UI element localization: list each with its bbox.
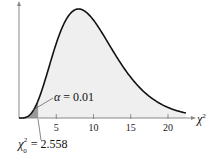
curve-body-fill — [19, 9, 186, 118]
x-axis-label: χ2 — [196, 112, 206, 126]
x-tick-label: 10 — [89, 122, 99, 133]
alpha-annotation: α= 0.01 — [54, 90, 94, 104]
x-axis-arrow-icon — [191, 116, 196, 120]
critical-value-annotation: χ20= 2.558 — [16, 136, 68, 155]
x-tick-label: 15 — [126, 122, 136, 133]
y-axis-arrow-icon — [17, 1, 21, 6]
chi-square-distribution-figure: 5101520 χ2 α= 0.01 χ20= 2.558 — [0, 0, 212, 163]
x-tick-label: 20 — [163, 122, 173, 133]
x-tick-label: 5 — [54, 122, 59, 133]
